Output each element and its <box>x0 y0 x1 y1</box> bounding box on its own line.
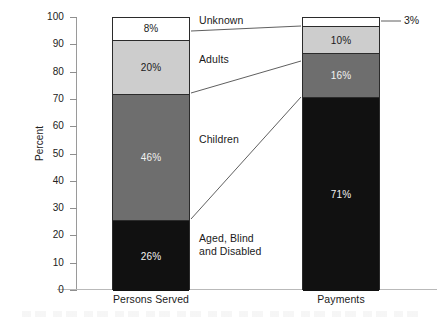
y-axis-tick <box>70 263 77 264</box>
segment-value-label: 46% <box>141 152 161 163</box>
segment-persons-served-children[interactable]: 46% <box>113 94 189 220</box>
segment-payments-adults[interactable]: 10% <box>303 26 379 53</box>
segment-value-label: 71% <box>331 189 351 200</box>
stacked-bar-chart: Percent 0102030405060708090100 8% 20% 46… <box>0 0 437 319</box>
segment-value-label: 20% <box>141 62 161 73</box>
bar-payments[interactable]: 10% 16% 71% <box>302 17 380 290</box>
segment-persons-served-aged-blind-disabled[interactable]: 26% <box>113 220 189 291</box>
y-axis-tick-label: 90 <box>26 38 64 49</box>
callout-payments-unknown-value: 3% <box>404 14 419 26</box>
segment-persons-served-unknown[interactable]: 8% <box>113 18 189 40</box>
segment-payments-children[interactable]: 16% <box>303 53 379 97</box>
y-axis-tick <box>70 17 77 18</box>
bar-persons-served[interactable]: 8% 20% 46% 26% <box>112 17 190 290</box>
segment-persons-served-adults[interactable]: 20% <box>113 40 189 95</box>
segment-value-label: 16% <box>331 70 351 81</box>
y-axis-tick <box>70 126 77 127</box>
y-axis-tick-label: 40 <box>26 175 64 186</box>
leader-line-children <box>191 97 301 219</box>
segment-value-label: 10% <box>331 35 351 46</box>
segment-payments-unknown[interactable] <box>303 18 379 26</box>
y-axis-tick-label: 100 <box>26 11 64 22</box>
y-axis-tick <box>70 99 77 100</box>
y-axis-tick-label: 0 <box>26 284 64 295</box>
y-axis-tick <box>70 181 77 182</box>
y-axis-tick-label: 10 <box>26 257 64 268</box>
x-axis-label-payments: Payments <box>266 293 416 305</box>
category-label-unknown: Unknown <box>199 14 243 27</box>
y-axis-tick-label: 30 <box>26 202 64 213</box>
y-axis-tick-label: 70 <box>26 93 64 104</box>
category-label-children: Children <box>199 133 239 146</box>
y-axis-tick <box>70 72 77 73</box>
y-axis-tick <box>70 235 77 236</box>
y-axis-tick-label: 20 <box>26 229 64 240</box>
segment-value-label: 8% <box>144 23 159 34</box>
y-axis-tick-label: 80 <box>26 66 64 77</box>
cut-off-caption-remnant <box>22 311 422 317</box>
x-axis-label-persons-served: Persons Served <box>76 293 226 305</box>
y-axis-tick-label: 50 <box>26 148 64 159</box>
segment-value-label: 26% <box>141 251 161 262</box>
y-axis-tick <box>70 44 77 45</box>
segment-payments-aged-blind-disabled[interactable]: 71% <box>303 97 379 291</box>
y-axis-tick <box>70 154 77 155</box>
category-label-aged-blind-disabled: Aged, Blind and Disabled <box>199 232 262 258</box>
y-axis-tick <box>70 290 77 291</box>
y-axis-tick <box>70 208 77 209</box>
y-axis-tick-label: 60 <box>26 120 64 131</box>
category-label-adults: Adults <box>199 53 229 66</box>
